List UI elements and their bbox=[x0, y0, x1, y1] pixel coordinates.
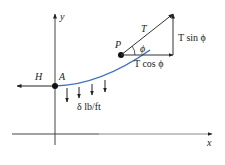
label-h: H bbox=[34, 71, 43, 82]
angle-arc bbox=[132, 46, 135, 55]
label-t-cos: T cos ϕ bbox=[134, 58, 164, 69]
tension-arrow bbox=[121, 14, 173, 55]
label-phi: ϕ bbox=[140, 43, 145, 54]
label-t-sin: T sin ϕ bbox=[178, 32, 206, 43]
label-p: P bbox=[114, 39, 121, 50]
x-axis-label: x bbox=[206, 137, 212, 148]
label-load: δ lb/ft bbox=[77, 101, 101, 112]
cable-diagram: y x H A P T ϕ T cos ϕ T sin ϕ δ lb/ft bbox=[0, 0, 225, 165]
load-arrows bbox=[67, 80, 105, 102]
label-t: T bbox=[141, 23, 148, 34]
label-a: A bbox=[58, 71, 66, 82]
point-a bbox=[52, 83, 58, 89]
y-axis-label: y bbox=[59, 11, 65, 22]
